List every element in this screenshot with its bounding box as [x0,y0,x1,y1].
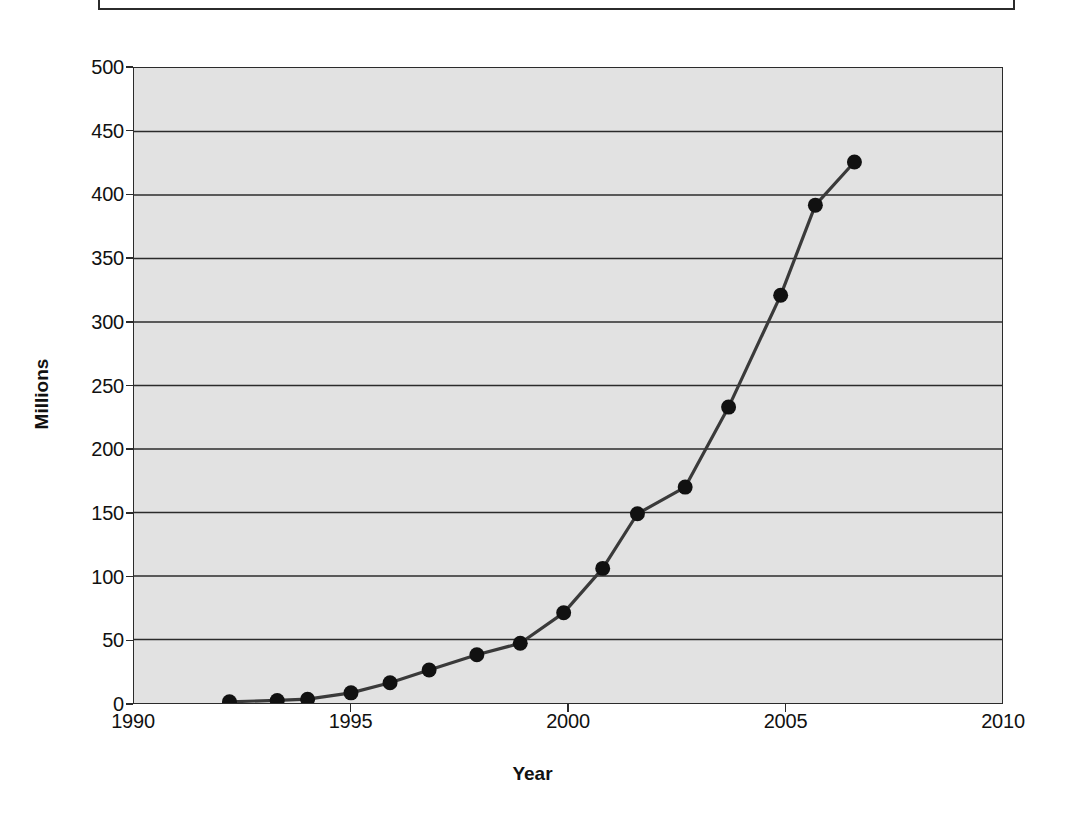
y-tick-mark [126,194,133,196]
y-tick-label: 200 [91,438,124,461]
data-point [556,605,571,620]
caption-box-bottom-border [98,0,1015,10]
y-tick-mark [126,257,133,259]
y-tick-label: 250 [91,374,124,397]
data-point [270,693,285,703]
data-point [513,636,528,651]
data-point [678,480,693,495]
y-tick-label: 300 [91,310,124,333]
y-tick-mark [126,640,133,642]
y-tick-label: 150 [91,501,124,524]
figure-container: 050100150200250300350400450500 Millions … [0,0,1065,814]
y-tick-label: 50 [102,629,124,652]
y-tick-mark [126,321,133,323]
y-axis-title: Millions [31,334,53,454]
x-tick-label: 1990 [111,710,155,733]
y-tick-mark [126,448,133,450]
data-line [229,162,854,702]
y-tick-label: 400 [91,183,124,206]
x-tick-label: 1995 [329,710,373,733]
x-tick-label: 2010 [981,710,1025,733]
data-point [300,692,315,703]
x-axis-title: Year [0,763,1065,785]
data-markers [222,155,862,703]
x-tick-mark [785,704,787,712]
plot-area [133,67,1003,704]
data-point [847,155,862,170]
x-tick-label: 2005 [764,710,808,733]
y-tick-mark [126,512,133,514]
gridlines [134,132,1002,640]
data-point [595,561,610,576]
data-point [808,198,823,213]
y-tick-label: 350 [91,247,124,270]
data-point [469,647,484,662]
y-tick-label: 450 [91,119,124,142]
x-tick-label: 2000 [546,710,590,733]
data-point [773,288,788,303]
y-tick-label: 100 [91,565,124,588]
data-point [422,663,437,678]
y-tick-mark [126,576,133,578]
data-point [721,400,736,415]
x-tick-mark [567,704,569,712]
y-tick-mark [126,385,133,387]
plot-svg [134,68,1002,703]
y-tick-mark [126,130,133,132]
y-tick-label: 500 [91,56,124,79]
y-tick-mark [126,66,133,68]
data-point [344,685,359,700]
x-tick-mark [350,704,352,712]
data-point [383,675,398,690]
data-point [222,694,237,703]
y-axis-tick-labels: 050100150200250300350400450500 [0,0,124,814]
y-tick-mark [126,703,133,705]
data-point [630,506,645,521]
